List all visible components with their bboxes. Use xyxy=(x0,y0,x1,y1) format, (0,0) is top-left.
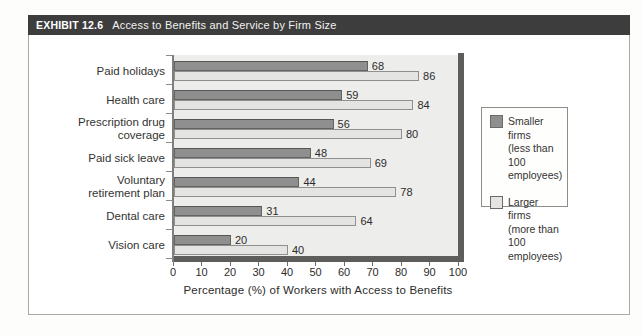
bar-larger-firms xyxy=(174,129,402,139)
x-axis-tick-label: 40 xyxy=(273,266,301,278)
legend-entry-larger-firms: Larger firms (more than 100 employees) xyxy=(490,196,563,264)
bar-value-label: 69 xyxy=(375,157,387,169)
x-axis-tick-label: 20 xyxy=(216,266,244,278)
plot-right-shadow xyxy=(458,53,464,256)
category-label: Paid sick leave xyxy=(30,144,165,172)
x-axis-baseline xyxy=(173,256,464,262)
category-label: Voluntary retirement plan xyxy=(30,173,165,201)
legend-entry-smaller-firms: Smaller firms (less than 100 employees) xyxy=(490,115,563,183)
category-label: Health care xyxy=(30,86,165,114)
category-label: Prescription drug coverage xyxy=(30,115,165,143)
bar-value-label: 86 xyxy=(423,70,435,82)
bar-larger-firms xyxy=(174,245,288,255)
bar-value-label: 80 xyxy=(406,128,418,140)
bar-smaller-firms xyxy=(174,61,368,71)
x-axis-tick-label: 0 xyxy=(159,266,187,278)
x-axis-tick-label: 90 xyxy=(416,266,444,278)
bar-smaller-firms xyxy=(174,148,311,158)
legend-swatch-smaller-firms xyxy=(490,115,503,128)
y-axis-tick xyxy=(166,142,173,143)
x-axis-tick-label: 50 xyxy=(302,266,330,278)
legend-swatch-larger-firms xyxy=(490,196,503,209)
bar-larger-firms xyxy=(174,187,396,197)
bar-smaller-firms xyxy=(174,206,262,216)
x-axis-title: Percentage (%) of Workers with Access to… xyxy=(158,284,478,296)
bar-value-label: 78 xyxy=(400,186,412,198)
x-axis-tick-label: 10 xyxy=(188,266,216,278)
y-axis-tick xyxy=(166,229,173,230)
legend-label-smaller-firms: Smaller firms (less than 100 employees) xyxy=(508,115,563,183)
bar-chart: Paid holidaysHealth carePrescription dru… xyxy=(0,0,643,336)
x-axis-tick-label: 60 xyxy=(330,266,358,278)
category-label: Vision care xyxy=(30,231,165,259)
bar-value-label: 84 xyxy=(417,99,429,111)
bar-larger-firms xyxy=(174,216,356,226)
y-axis-tick xyxy=(166,55,173,56)
y-axis-tick xyxy=(166,258,173,259)
bar-larger-firms xyxy=(174,100,413,110)
x-axis-tick-label: 30 xyxy=(245,266,273,278)
category-label: Paid holidays xyxy=(30,57,165,85)
x-axis-tick-label: 100 xyxy=(444,266,472,278)
bar-value-label: 64 xyxy=(360,215,372,227)
bar-smaller-firms xyxy=(174,90,342,100)
bar-smaller-firms xyxy=(174,177,299,187)
y-axis-tick xyxy=(166,84,173,85)
category-label: Dental care xyxy=(30,202,165,230)
y-axis-tick xyxy=(166,171,173,172)
bar-larger-firms xyxy=(174,71,419,81)
x-axis-tick-label: 80 xyxy=(387,266,415,278)
y-axis-tick xyxy=(166,113,173,114)
bar-smaller-firms xyxy=(174,119,334,129)
bar-smaller-firms xyxy=(174,235,231,245)
bar-larger-firms xyxy=(174,158,371,168)
bar-value-label: 40 xyxy=(292,244,304,256)
legend-label-larger-firms: Larger firms (more than 100 employees) xyxy=(508,196,563,264)
x-axis-tick-label: 70 xyxy=(359,266,387,278)
legend: Smaller firms (less than 100 employees) … xyxy=(481,107,568,207)
y-axis-tick xyxy=(166,200,173,201)
